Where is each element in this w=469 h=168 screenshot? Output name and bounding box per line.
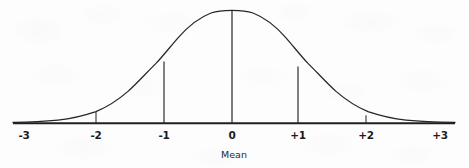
x-tick-label-minus-3: -3 — [18, 130, 29, 141]
axis-caption-mean: Mean — [221, 150, 247, 160]
x-tick-label-minus-2: -2 — [90, 130, 101, 141]
x-tick-label-plus-1: +1 — [290, 130, 306, 141]
normal-distribution-figure: -3 -2 -1 0 +1 +2 +3 Mean — [0, 0, 469, 168]
x-tick-label-minus-1: -1 — [158, 130, 169, 141]
bell-curve-path — [13, 10, 455, 122]
distribution-chart-svg — [0, 0, 469, 168]
x-tick-label-zero: 0 — [228, 130, 235, 141]
x-tick-label-plus-2: +2 — [358, 130, 374, 141]
x-tick-label-plus-3: +3 — [432, 130, 448, 141]
